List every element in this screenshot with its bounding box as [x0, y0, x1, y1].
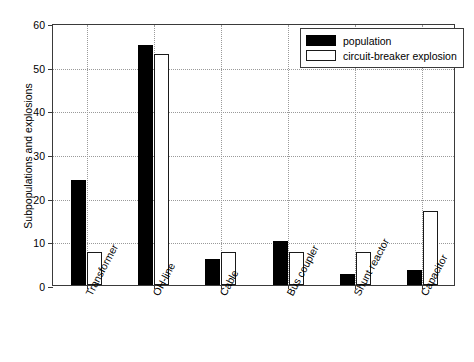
- y-axis-title: Subpopulations and explosions: [22, 36, 34, 276]
- gridline-vertical: [288, 25, 289, 285]
- legend-label-population: population: [343, 35, 391, 47]
- bar: [273, 241, 288, 285]
- y-tick-mark: [48, 112, 53, 113]
- y-tick-mark: [48, 69, 53, 70]
- legend-swatch-circuit-breaker-explosion: [306, 50, 336, 61]
- y-tick-mark: [48, 25, 53, 26]
- y-tick-label: 50: [33, 63, 45, 75]
- gridline-horizontal: [53, 200, 454, 201]
- legend-item: population: [306, 33, 457, 48]
- y-tick-label: 30: [33, 150, 45, 162]
- bar: [407, 270, 422, 285]
- gridline-horizontal: [53, 69, 454, 70]
- gridline-horizontal: [53, 112, 454, 113]
- y-tick-label: 10: [33, 237, 45, 249]
- bar: [154, 54, 169, 285]
- legend-label-circuit-breaker-explosion: circuit-breaker explosion: [343, 50, 457, 62]
- y-tick-label: 0: [39, 281, 45, 293]
- bar: [138, 45, 153, 285]
- y-tick-label: 40: [33, 106, 45, 118]
- bar: [205, 259, 220, 285]
- y-tick-label: 60: [33, 19, 45, 31]
- bar: [71, 180, 86, 285]
- bar: [340, 274, 355, 285]
- legend-item: circuit-breaker explosion: [306, 48, 457, 63]
- y-tick-mark: [48, 287, 53, 288]
- y-tick-mark: [48, 156, 53, 157]
- gridline-horizontal: [53, 156, 454, 157]
- gridline-vertical: [87, 25, 88, 285]
- legend-swatch-population: [306, 35, 336, 46]
- gridline-vertical: [221, 25, 222, 285]
- chart-legend: population circuit-breaker explosion: [300, 28, 464, 68]
- bar-chart-figure: Subpopulations and explosions 0102030405…: [0, 0, 474, 362]
- y-tick-mark: [48, 243, 53, 244]
- y-tick-mark: [48, 200, 53, 201]
- y-tick-label: 20: [33, 194, 45, 206]
